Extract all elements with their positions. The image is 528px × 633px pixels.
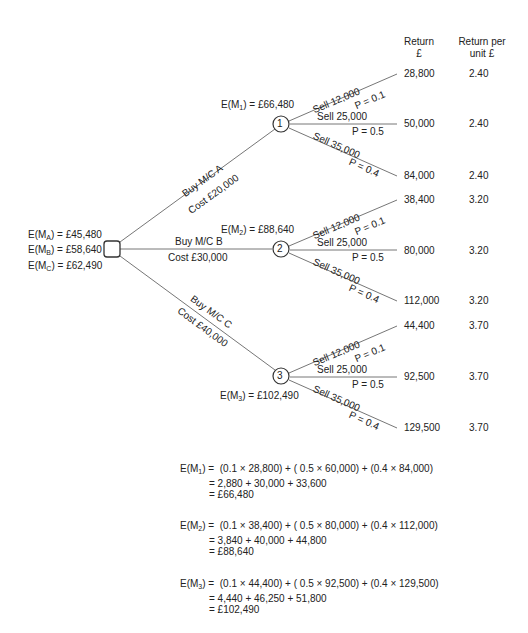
probability-label: P = 0.5 <box>352 126 384 138</box>
calculation-line-1: E(M1) = (0.1 × 28,800) + ( 0.5 × 60,000)… <box>180 463 433 478</box>
buy-b-label: Buy M/C B <box>175 236 223 248</box>
return-value: 50,000 <box>404 118 435 130</box>
ev-node-1: E(M1) = £66,480 <box>221 99 294 114</box>
return-value: 129,500 <box>404 422 440 434</box>
chance-node-1-label: 1 <box>277 118 283 130</box>
ev-machine-b: E(MB) = £58,640 <box>28 244 102 259</box>
calculation-line-2: = 2,880 + 30,000 + 33,600 <box>180 478 433 490</box>
header-return-line2: £ <box>394 48 444 60</box>
per-unit-value: 3.20 <box>469 194 488 206</box>
header-return-per-unit-line2: unit £ <box>452 48 512 60</box>
ev-node-2: E(M2) = £88,640 <box>221 224 294 239</box>
return-value: 38,400 <box>404 194 435 206</box>
decision-node-square <box>104 241 120 257</box>
per-unit-value: 2.40 <box>469 118 488 130</box>
per-unit-value: 3.20 <box>469 245 488 257</box>
chance-node-3-label: 3 <box>277 370 283 382</box>
calculation-line-3: = £88,640 <box>180 546 438 558</box>
per-unit-value: 3.20 <box>469 295 488 307</box>
probability-label: P = 0.5 <box>352 379 384 391</box>
return-value: 112,000 <box>404 295 439 307</box>
calculation-line-3: = £102,490 <box>180 604 439 616</box>
calculation-block-2: E(M2) = (0.1 × 38,400) + ( 0.5 × 80,000)… <box>180 520 438 558</box>
header-return-per-unit-line1: Return per <box>452 36 512 48</box>
return-value: 84,000 <box>404 170 435 182</box>
sell-label: Sell 25,000 <box>317 237 367 249</box>
calculation-line-2: = 3,840 + 40,000 + 44,800 <box>180 535 438 547</box>
per-unit-value: 3.70 <box>469 371 488 383</box>
header-return: Return £ <box>394 36 444 60</box>
ev-machine-c: E(MC) = £62,490 <box>28 260 102 275</box>
per-unit-value: 3.70 <box>469 422 488 434</box>
per-unit-value: 3.70 <box>469 320 488 332</box>
return-value: 80,000 <box>404 245 435 257</box>
calculation-block-3: E(M3) = (0.1 × 44,400) + ( 0.5 × 92,500)… <box>180 578 439 616</box>
calculation-block-1: E(M1) = (0.1 × 28,800) + ( 0.5 × 60,000)… <box>180 463 433 501</box>
calculation-line-2: = 4,440 + 46,250 + 51,800 <box>180 593 439 605</box>
calculation-line-1: E(M2) = (0.1 × 38,400) + ( 0.5 × 80,000)… <box>180 520 438 535</box>
return-value: 28,800 <box>404 68 435 80</box>
cost-b-label: Cost £30,000 <box>168 252 228 264</box>
header-return-per-unit: Return per unit £ <box>452 36 512 60</box>
sell-label: Sell 25,000 <box>317 111 367 123</box>
return-value: 92,500 <box>404 371 435 383</box>
calculation-line-1: E(M3) = (0.1 × 44,400) + ( 0.5 × 92,500)… <box>180 578 439 593</box>
sell-label: Sell 25,000 <box>317 364 367 376</box>
header-return-line1: Return <box>394 36 444 48</box>
branch-buy-c-line <box>120 256 275 370</box>
ev-node-3: E(M3) = £102,490 <box>220 390 299 405</box>
per-unit-value: 2.40 <box>469 68 488 80</box>
chance-node-2-label: 2 <box>277 243 283 255</box>
calculation-line-3: = £66,480 <box>180 489 433 501</box>
return-value: 44,400 <box>404 320 435 332</box>
ev-machine-a: E(MA) = £45,480 <box>28 229 102 244</box>
probability-label: P = 0.5 <box>352 252 384 264</box>
per-unit-value: 2.40 <box>469 170 488 182</box>
